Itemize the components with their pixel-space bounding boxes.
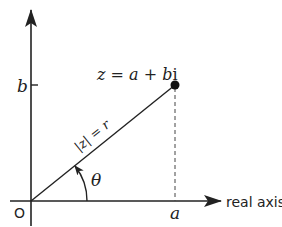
- modulus-label: |z| = r: [71, 116, 113, 154]
- y-tick-label: b: [17, 76, 28, 96]
- angle-arc: [75, 166, 87, 201]
- modulus-line: [31, 85, 175, 201]
- real-axis-label: real axis: [226, 194, 282, 210]
- angle-label: θ: [91, 170, 101, 190]
- x-tick-label: a: [170, 203, 180, 223]
- origin-label: O: [14, 205, 25, 221]
- point-label: z = a + bi: [96, 65, 178, 84]
- complex-plane-diagram: b z = a + bi |z| = r θ O a real axis: [0, 0, 282, 227]
